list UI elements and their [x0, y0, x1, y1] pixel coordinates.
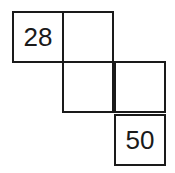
cell-r1-c2	[114, 61, 166, 113]
cell-r0-c1	[62, 11, 114, 63]
cell-r0-c0: 28	[12, 11, 64, 63]
cell-r1-c1	[62, 61, 114, 113]
cell-r2-c2: 50	[114, 114, 166, 166]
